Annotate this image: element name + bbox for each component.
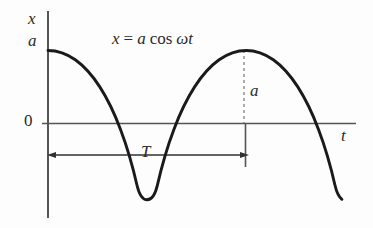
equation-omega: ω [176, 29, 188, 48]
x-axis-label: t [341, 127, 346, 144]
origin-label: 0 [24, 112, 33, 129]
equation-equals: = [124, 29, 134, 48]
equation-lhs: x [112, 29, 120, 48]
equation-amplitude: a [137, 29, 146, 48]
period-label: T [141, 143, 150, 160]
sine-wave-figure: x a 0 t T a x=acosωt [0, 0, 373, 228]
y-axis-label: x [28, 10, 36, 27]
curve-construction-hidden [48, 51, 343, 190]
amplitude-annotation-label: a [250, 82, 259, 99]
equation-annotation: x=acosωt [112, 30, 193, 47]
cosine-curve [48, 51, 342, 200]
equation-time: t [188, 29, 193, 48]
y-axis-amplitude-label: a [28, 32, 37, 49]
equation-cosine: cos [150, 29, 173, 48]
